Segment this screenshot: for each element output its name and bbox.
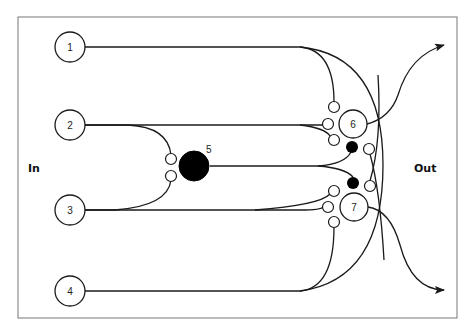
connection-2-to-5 xyxy=(85,125,171,155)
synapse-2-6 xyxy=(323,119,334,130)
synapse-3b-7 xyxy=(323,202,334,213)
connection-3-to-7 xyxy=(300,207,323,210)
synapse-7-6 xyxy=(364,144,375,155)
svg-text:3: 3 xyxy=(67,205,73,216)
synapse-2-5 xyxy=(166,154,177,165)
svg-text:4: 4 xyxy=(67,286,73,297)
connection-5-to-7 xyxy=(318,166,353,177)
synapse-4-7 xyxy=(329,217,340,228)
connection-4-to-7 xyxy=(300,227,334,291)
inhibitory-synapse-5-6 xyxy=(346,141,358,153)
input-node-1: 1 xyxy=(55,32,85,62)
synapse-6-7 xyxy=(365,181,376,192)
connection-1-outer-arc xyxy=(300,47,383,291)
in-label: In xyxy=(28,162,40,175)
connection-1-to-6 xyxy=(300,47,334,102)
connections xyxy=(85,45,444,310)
connection-5-to-6 xyxy=(318,152,351,166)
synapse-3-7 xyxy=(329,186,340,197)
svg-text:7: 7 xyxy=(351,202,357,213)
diagram-frame xyxy=(18,17,457,318)
svg-text:2: 2 xyxy=(67,120,73,131)
svg-text:6: 6 xyxy=(350,119,356,130)
synapse-3-5 xyxy=(166,171,177,182)
out-label: Out xyxy=(414,162,436,175)
svg-text:1: 1 xyxy=(67,42,73,53)
output-node-6: 6 xyxy=(323,102,375,155)
synapse-2b-6 xyxy=(329,135,340,146)
input-node-2: 2 xyxy=(55,110,85,140)
output-arrow-7 xyxy=(368,207,444,290)
inhibitory-synapse-5-7 xyxy=(347,177,359,189)
output-node-7: 7 xyxy=(323,177,376,228)
synapse-1-6 xyxy=(329,102,340,113)
connection-3-to-5 xyxy=(85,180,171,210)
input-node-3: 3 xyxy=(55,195,85,225)
connection-3-to-7b xyxy=(255,194,330,210)
input-node-4: 4 xyxy=(55,276,85,306)
svg-text:5: 5 xyxy=(206,144,212,155)
hidden-node-5: 5 xyxy=(166,144,213,182)
network-diagram: In Out 1 2 xyxy=(0,0,473,332)
